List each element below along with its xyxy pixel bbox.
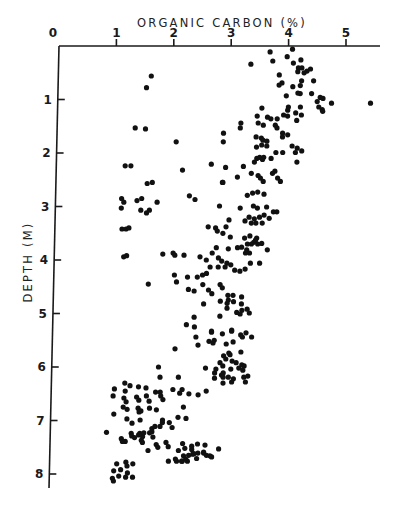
y-tick-label: 8 — [35, 467, 43, 481]
data-point — [261, 123, 266, 128]
data-point — [262, 213, 267, 218]
data-point — [232, 268, 237, 273]
data-point — [204, 271, 209, 276]
data-point — [293, 110, 298, 115]
data-point — [228, 367, 233, 372]
data-point — [146, 282, 151, 287]
data-point — [231, 299, 236, 304]
data-point — [216, 446, 221, 451]
data-point — [122, 381, 127, 386]
data-point — [206, 224, 211, 229]
data-point — [220, 285, 225, 290]
data-point — [118, 467, 123, 472]
data-point — [228, 234, 233, 239]
data-point — [294, 118, 299, 123]
y-tick-label: 2 — [42, 146, 50, 160]
data-point — [242, 236, 247, 241]
data-point — [274, 125, 279, 130]
data-point — [315, 99, 320, 104]
data-point — [173, 456, 178, 461]
data-point — [156, 364, 161, 369]
data-point — [192, 197, 197, 202]
data-point — [180, 168, 185, 173]
data-point — [204, 389, 209, 394]
data-point — [145, 181, 150, 186]
data-point — [175, 415, 180, 420]
data-point — [172, 272, 177, 277]
data-point — [242, 218, 247, 223]
data-point — [234, 360, 239, 365]
data-point — [237, 269, 242, 274]
data-points — [104, 47, 373, 484]
data-point — [195, 441, 200, 446]
data-point — [157, 424, 162, 429]
data-point — [220, 381, 225, 386]
data-point — [192, 324, 197, 329]
y-axis-line — [49, 46, 59, 488]
data-point — [275, 116, 280, 121]
x-tick-label: 2 — [170, 26, 178, 40]
data-point — [249, 334, 254, 339]
data-point — [240, 368, 245, 373]
data-point — [290, 84, 295, 89]
data-point — [141, 430, 146, 435]
data-point — [223, 165, 228, 170]
data-point — [111, 412, 116, 417]
data-point — [182, 446, 187, 451]
data-point — [247, 233, 252, 238]
data-point — [238, 125, 243, 130]
data-point — [329, 101, 334, 106]
data-point — [220, 363, 225, 368]
data-point — [220, 331, 225, 336]
data-point — [176, 375, 181, 380]
data-point — [255, 206, 260, 211]
data-point — [245, 241, 250, 246]
data-point — [153, 390, 158, 395]
data-point — [220, 231, 225, 236]
data-point — [195, 451, 200, 456]
data-point — [209, 162, 214, 167]
data-point — [163, 440, 168, 445]
data-point — [152, 424, 157, 429]
data-point — [155, 445, 160, 450]
data-point — [119, 206, 124, 211]
data-point — [210, 250, 215, 255]
data-point — [249, 221, 254, 226]
data-point — [285, 114, 290, 119]
data-point — [278, 179, 283, 184]
data-point — [298, 83, 303, 88]
data-point — [225, 293, 230, 298]
data-point — [239, 245, 244, 250]
data-point — [268, 49, 273, 54]
data-point — [136, 384, 141, 389]
data-point — [114, 461, 119, 466]
data-point — [253, 221, 258, 226]
data-point — [166, 459, 171, 464]
data-point — [130, 461, 135, 466]
data-point — [257, 261, 262, 266]
data-point — [264, 143, 269, 148]
data-point — [238, 311, 243, 316]
y-tick-label: 5 — [39, 307, 47, 321]
data-point — [290, 47, 295, 52]
data-point — [155, 200, 160, 205]
x-tick-label: 1 — [112, 26, 120, 40]
data-point — [264, 204, 269, 209]
data-point — [112, 386, 117, 391]
data-point — [299, 112, 304, 117]
data-point — [228, 262, 233, 267]
data-point — [302, 70, 307, 75]
y-tick-label: 7 — [36, 414, 44, 428]
data-point — [243, 330, 248, 335]
data-point — [186, 391, 191, 396]
data-point — [260, 157, 265, 162]
data-point — [124, 253, 129, 258]
data-point — [231, 339, 236, 344]
data-point — [238, 206, 243, 211]
data-point — [231, 376, 236, 381]
data-point — [240, 334, 245, 339]
data-point — [123, 475, 128, 480]
data-point — [216, 264, 221, 269]
data-point — [125, 407, 130, 412]
data-point — [111, 478, 116, 483]
